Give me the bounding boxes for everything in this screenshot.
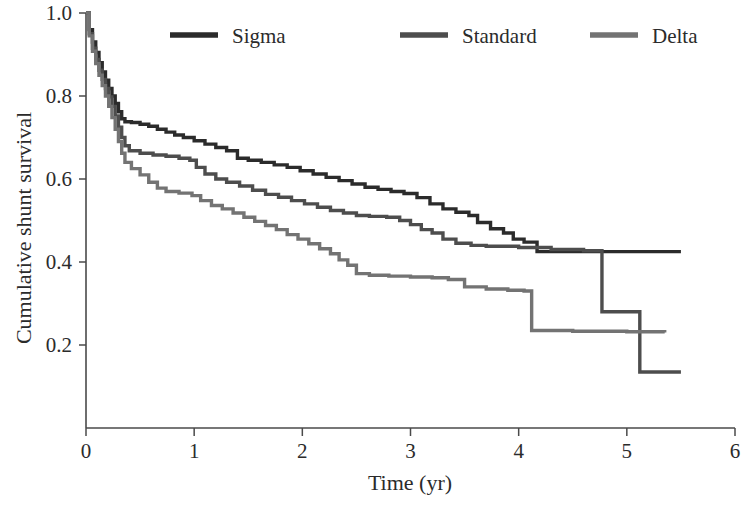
y-axis-title: Cumulative shunt survival: [11, 112, 36, 344]
y-tick-marks: [79, 13, 86, 345]
x-axis-title: Time (yr): [368, 470, 452, 495]
figure-canvas: 0.20.40.60.81.0 0123456 Cumulative shunt…: [0, 0, 754, 516]
series-curves: [86, 13, 681, 372]
legend-label-standard: Standard: [462, 24, 537, 48]
legend-label-delta: Delta: [652, 24, 698, 48]
x-tick-labels: 0123456: [81, 439, 741, 463]
x-tick-label-1: 1: [189, 439, 200, 463]
y-tick-label-0.6: 0.6: [46, 167, 72, 191]
y-tick-label-1.0: 1.0: [46, 1, 72, 25]
survival-chart: 0.20.40.60.81.0 0123456 Cumulative shunt…: [0, 0, 754, 516]
x-tick-label-4: 4: [513, 439, 524, 463]
legend-label-sigma: Sigma: [232, 24, 286, 48]
x-tick-label-5: 5: [622, 439, 633, 463]
x-tick-marks: [86, 428, 735, 436]
y-tick-label-0.2: 0.2: [46, 333, 72, 357]
y-tick-label-0.8: 0.8: [46, 84, 72, 108]
legend-item-sigma: Sigma: [170, 24, 286, 48]
y-tick-labels: 0.20.40.60.81.0: [46, 1, 73, 357]
curve-delta: [86, 13, 665, 333]
x-tick-label-3: 3: [405, 439, 416, 463]
chart-legend: SigmaStandardDelta: [170, 24, 698, 48]
legend-item-standard: Standard: [400, 24, 537, 48]
x-tick-label-2: 2: [297, 439, 308, 463]
legend-item-delta: Delta: [590, 24, 698, 48]
y-tick-label-0.4: 0.4: [46, 250, 73, 274]
x-tick-label-6: 6: [730, 439, 741, 463]
x-tick-label-0: 0: [81, 439, 92, 463]
